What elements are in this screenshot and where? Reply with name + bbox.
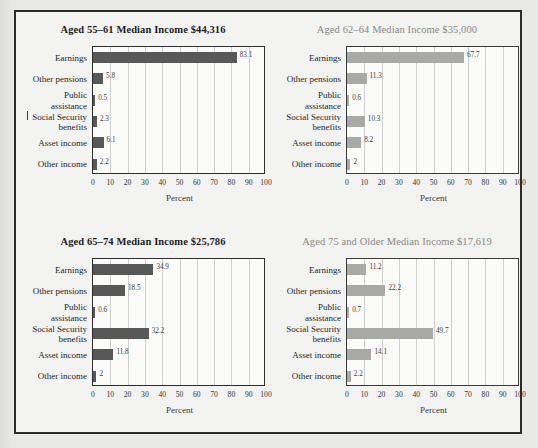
bar [347, 95, 349, 106]
category-label-1: Earnings [249, 53, 341, 64]
x-axis-tick: 80 [228, 390, 236, 399]
bar [347, 159, 350, 170]
bar-row: 18.5Other pensions [93, 280, 264, 301]
category-label-3: Public assistance [0, 90, 87, 111]
bar-row: 14.1Asset income [347, 344, 518, 365]
category-label-4: Social Security benefits [0, 112, 87, 133]
bar-value-label: 0.6 [98, 306, 107, 314]
x-axis-tick: 50 [430, 390, 438, 399]
x-axis-tick: 30 [395, 178, 403, 187]
figure-page: Aged 55–61 Median Income $44,31683.1Earn… [16, 12, 520, 432]
x-axis-tick: 60 [447, 178, 455, 187]
bar-value-label: 0.7 [352, 306, 361, 314]
chart-title: Aged 55–61 Median Income $44,316 [16, 24, 270, 35]
bar-value-label: 22.2 [388, 284, 401, 292]
x-axis-tick: 20 [378, 178, 386, 187]
bar-value-label: 34.9 [156, 263, 169, 271]
bar [93, 307, 95, 318]
x-axis-label: Percent [93, 405, 266, 415]
bar [93, 52, 237, 63]
bar-value-label: 18.5 [128, 284, 141, 292]
x-axis-tick: 70 [210, 390, 218, 399]
category-label-6: Other income [249, 371, 341, 382]
bar [93, 95, 95, 106]
x-axis-tick: 50 [176, 178, 184, 187]
x-axis-tick: 40 [412, 390, 420, 399]
bar [347, 371, 351, 382]
x-axis-tick: 50 [176, 390, 184, 399]
bar-row: 0.6Public assistance [347, 90, 518, 111]
x-axis-tick: 100 [514, 178, 525, 187]
bar [347, 307, 349, 318]
plot-area: 34.9Earnings18.5Other pensions0.6Public … [92, 258, 265, 386]
chart-title: Aged 75 and Older Median Income $17,619 [270, 236, 524, 247]
x-axis-tick: 90 [499, 178, 507, 187]
bar-value-label: 2 [99, 370, 103, 378]
bar-row: 2Other income [347, 154, 518, 175]
category-label-5: Asset income [249, 350, 341, 361]
x-axis-tick: 10 [107, 178, 115, 187]
category-label-2: Other pensions [0, 286, 87, 297]
bar-row: 2.3Social Security benefits [93, 111, 264, 132]
plot-area: 11.2Earnings22.2Other pensions0.7Public … [346, 258, 519, 386]
x-axis-tick: 70 [464, 178, 472, 187]
category-label-6: Other income [249, 159, 341, 170]
x-axis-tick: 90 [245, 178, 253, 187]
x-axis-tick: 80 [228, 178, 236, 187]
chart-panel-1: Aged 55–61 Median Income $44,31683.1Earn… [16, 12, 270, 224]
x-axis-tick: 90 [245, 390, 253, 399]
x-axis-tick: 40 [412, 178, 420, 187]
chart-title: Aged 62–64 Median Income $35,000 [270, 24, 524, 35]
bar-value-label: 0.6 [352, 94, 361, 102]
x-axis-tick: 60 [447, 390, 455, 399]
category-label-4: Social Security benefits [249, 324, 341, 345]
bar [93, 285, 125, 296]
bar-row: 5.8Other pensions [93, 68, 264, 89]
bar-row: 0.7Public assistance [347, 302, 518, 323]
bar-row: 6.1Asset income [93, 132, 264, 153]
x-axis-tick: 20 [124, 178, 132, 187]
x-axis-tick: 30 [395, 390, 403, 399]
x-axis-tick: 10 [361, 178, 369, 187]
x-axis-tick: 40 [158, 390, 166, 399]
x-axis-tick: 50 [430, 178, 438, 187]
x-axis-tick: 0 [345, 390, 349, 399]
bar-value-label: 49.7 [436, 327, 449, 335]
bar-value-label: 32.2 [152, 327, 165, 335]
panel-grid: Aged 55–61 Median Income $44,31683.1Earn… [16, 12, 520, 432]
bar-value-label: 2.3 [100, 115, 109, 123]
bar-row: 8.2Asset income [347, 132, 518, 153]
category-label-4: Social Security benefits [249, 112, 341, 133]
bar [93, 371, 96, 382]
chart-panel-3: Aged 65–74 Median Income $25,78634.9Earn… [16, 224, 270, 436]
x-axis-tick: 30 [141, 178, 149, 187]
x-axis-tick: 40 [158, 178, 166, 187]
bar-row: 11.8Asset income [93, 344, 264, 365]
x-axis-tick: 0 [91, 178, 95, 187]
bar [347, 349, 371, 360]
x-axis-tick: 70 [464, 390, 472, 399]
bar [347, 52, 464, 63]
bar [93, 264, 153, 275]
x-axis-tick: 90 [499, 390, 507, 399]
plot-area: 67.7Earnings11.3Other pensions0.6Public … [346, 46, 519, 174]
bar-row: 10.3Social Security benefits [347, 111, 518, 132]
bar-value-label: 2 [353, 158, 357, 166]
bar [347, 116, 365, 127]
x-axis-tick: 20 [378, 390, 386, 399]
bar [93, 137, 104, 148]
bar-row: 11.3Other pensions [347, 68, 518, 89]
bar [93, 116, 97, 127]
bar-row: 11.2Earnings [347, 259, 518, 280]
bar [347, 73, 367, 84]
x-axis-tick: 70 [210, 178, 218, 187]
category-label-1: Earnings [0, 53, 87, 64]
chart-panel-4: Aged 75 and Older Median Income $17,6191… [270, 224, 524, 436]
bar-value-label: 67.7 [467, 51, 480, 59]
category-label-1: Earnings [0, 265, 87, 276]
category-label-3: Public assistance [249, 90, 341, 111]
x-axis-tick: 10 [361, 390, 369, 399]
bar-row: 0.6Public assistance [93, 302, 264, 323]
bar-row: 49.7Social Security benefits [347, 323, 518, 344]
chart-panel-2: Aged 62–64 Median Income $35,00067.7Earn… [270, 12, 524, 224]
